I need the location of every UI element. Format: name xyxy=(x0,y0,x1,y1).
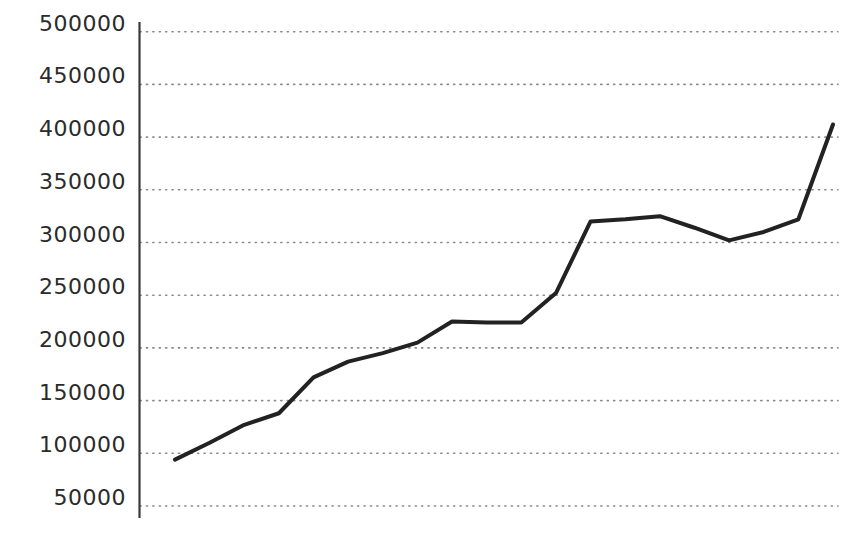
data-line xyxy=(175,124,833,459)
plot-area xyxy=(0,0,864,537)
data-series-group xyxy=(175,124,833,459)
line-chart: 5000004500004000003500003000002500002000… xyxy=(0,0,864,537)
gridlines xyxy=(140,32,838,506)
